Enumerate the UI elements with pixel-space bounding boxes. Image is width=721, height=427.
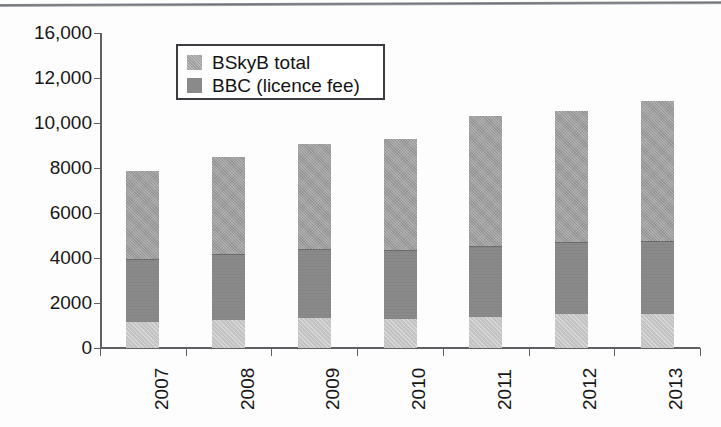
bar-2011[interactable] [469, 0, 502, 427]
x-axis-tick [186, 348, 187, 356]
y-axis-tick-label-text: 12,000 [18, 68, 92, 87]
bar-2007[interactable] [126, 0, 159, 427]
x-axis-tick [271, 348, 272, 356]
y-axis-tick-label: 10,000 [8, 113, 92, 132]
y-axis-tick [94, 258, 101, 259]
bar-segment-bskyb-2013 [641, 101, 674, 243]
bar-segment-bbc-2013 [641, 242, 674, 314]
x-axis-tick [100, 348, 101, 356]
y-axis-tick [94, 168, 101, 169]
y-axis-tick-label: 8000 [8, 158, 92, 177]
y-axis-tick-label: 4000 [8, 248, 92, 267]
y-axis-tick-label-text: 8000 [18, 158, 92, 177]
legend-swatch-bbc [187, 78, 202, 93]
x-axis-tick [700, 348, 701, 356]
bar-segment-bbc-2009 [298, 250, 331, 318]
x-axis-tick [614, 348, 615, 356]
y-axis-tick-label-text: 6000 [18, 203, 92, 222]
y-axis-tick-label: 2000 [8, 293, 92, 312]
x-axis-tick [529, 348, 530, 356]
legend-item-bskyb[interactable]: BSkyB total [187, 51, 310, 73]
y-axis-tick [94, 33, 101, 34]
legend-label-bskyb: BSkyB total [212, 53, 310, 72]
page-bottom-caption [8, 412, 708, 424]
y-axis-tick-label-text: 0 [18, 338, 92, 357]
y-axis-tick-label: 6000 [8, 203, 92, 222]
bar-segment-base-2008 [212, 320, 245, 348]
bar-segment-bskyb-2008 [212, 157, 245, 255]
y-axis-tick-label: 16,000 [8, 23, 92, 42]
y-axis-tick-label: 0 [8, 338, 92, 357]
bar-segment-bskyb-2012 [555, 111, 588, 244]
x-axis-tick [443, 348, 444, 356]
bar-segment-base-2012 [555, 314, 588, 348]
bar-segment-bbc-2012 [555, 243, 588, 314]
bar-segment-bskyb-2011 [469, 116, 502, 247]
bar-segment-base-2009 [298, 318, 331, 348]
y-axis-tick [94, 303, 101, 304]
bar-segment-bbc-2007 [126, 260, 159, 322]
stacked-bar-chart: 16,00012,00010,00080006000400020000 2007… [0, 0, 721, 427]
bar-segment-bbc-2008 [212, 255, 245, 320]
y-axis-tick-label-text: 10,000 [18, 113, 92, 132]
chart-page: 16,00012,00010,00080006000400020000 2007… [0, 0, 721, 427]
bar-segment-bbc-2010 [384, 251, 417, 319]
legend-label-bbc: BBC (licence fee) [212, 76, 360, 95]
bar-2012[interactable] [555, 0, 588, 427]
y-axis-tick-label-text: 2000 [18, 293, 92, 312]
bar-segment-bskyb-2007 [126, 171, 159, 260]
y-axis-tick-label-text: 4000 [18, 248, 92, 267]
y-axis-tick [94, 78, 101, 79]
x-axis-tick [357, 348, 358, 356]
legend-swatch-bskyb [187, 55, 202, 70]
bar-segment-base-2007 [126, 322, 159, 348]
bar-segment-base-2011 [469, 317, 502, 349]
bar-segment-bskyb-2009 [298, 144, 331, 250]
legend-item-bbc[interactable]: BBC (licence fee) [187, 74, 360, 96]
bar-2010[interactable] [384, 0, 417, 427]
y-axis-tick [94, 213, 101, 214]
bar-segment-base-2013 [641, 314, 674, 348]
y-axis-line [100, 33, 102, 349]
y-axis-tick-label: 12,000 [8, 68, 92, 87]
bar-segment-bskyb-2010 [384, 139, 417, 252]
bar-2013[interactable] [641, 0, 674, 427]
chart-legend: BSkyB total BBC (licence fee) [176, 44, 385, 100]
bar-segment-base-2010 [384, 319, 417, 348]
y-axis-tick-label-text: 16,000 [18, 23, 92, 42]
y-axis-tick [94, 123, 101, 124]
bar-segment-bbc-2011 [469, 247, 502, 317]
